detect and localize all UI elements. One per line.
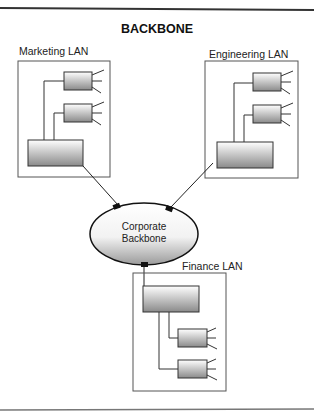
engineering-lan-label: Engineering LAN — [209, 48, 288, 60]
top-rule — [0, 8, 314, 10]
marketing-lan: Marketing LAN — [18, 45, 110, 177]
backbone-diagram: BACKBONE Marketing LAN Engineering LAN C… — [0, 0, 314, 416]
finance-lan-label: Finance LAN — [182, 260, 243, 272]
diagram-title: BACKBONE — [121, 22, 193, 36]
engineering-link — [171, 163, 213, 207]
hub-icon — [253, 105, 281, 123]
bottom-rule — [0, 409, 314, 410]
engineering-lan: Engineering LAN — [205, 48, 298, 178]
switch-icon — [28, 140, 83, 166]
hub-icon — [64, 104, 92, 122]
finance-lan: Finance LAN — [133, 260, 243, 391]
connector-icon — [141, 262, 148, 267]
hub-icon — [178, 329, 207, 347]
backbone-label-line1: Corporate — [122, 221, 167, 232]
switch-icon — [217, 142, 273, 168]
backbone-label-line2: Backbone — [122, 233, 167, 244]
hub-icon — [178, 360, 207, 378]
marketing-lan-label: Marketing LAN — [19, 45, 88, 57]
corporate-backbone: Corporate Backbone — [90, 203, 198, 267]
hub-icon — [253, 73, 281, 91]
marketing-link — [83, 166, 118, 205]
switch-icon — [143, 286, 199, 312]
hub-icon — [64, 72, 92, 90]
